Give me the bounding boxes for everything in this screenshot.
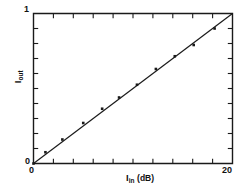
x-axis-title: Iin (dB) (126, 173, 154, 183)
data-point (173, 55, 176, 58)
x-axis-min-label: 0 (29, 166, 34, 175)
y-axis-title-subscript: out (17, 70, 24, 80)
data-point (118, 96, 121, 99)
data-point (155, 68, 158, 71)
data-point (192, 44, 195, 47)
y-axis-title-base: I (12, 80, 23, 83)
data-point (101, 107, 104, 110)
data-point (82, 122, 85, 125)
fit-line (34, 14, 233, 164)
chart-figure: 1 0 0 20 Iin (dB) Iout (0, 0, 251, 194)
y-axis-max-label: 1 (24, 5, 29, 14)
data-point (136, 83, 139, 86)
linear-fit-line (34, 14, 233, 164)
data-point (44, 151, 47, 154)
y-axis-title: Iout (13, 57, 23, 97)
data-point (213, 27, 216, 30)
x-axis-title-subscript: in (129, 177, 135, 184)
plot-canvas (0, 0, 251, 194)
x-axis-title-unit: (dB) (137, 173, 154, 183)
x-axis-max-label: 20 (222, 166, 232, 175)
data-point (61, 138, 64, 141)
